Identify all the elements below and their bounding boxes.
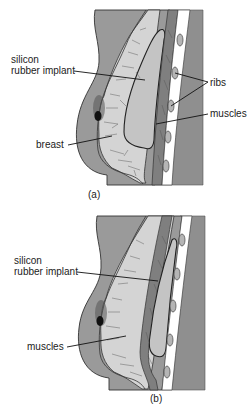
rib — [179, 234, 185, 246]
rib — [164, 366, 170, 378]
label-silicon-b: silicon — [14, 255, 42, 266]
rib — [167, 334, 173, 346]
rib — [165, 131, 171, 143]
label-silicon-a: silicon — [11, 54, 39, 65]
rib — [170, 300, 176, 312]
caption-b: (b) — [150, 393, 162, 404]
caption-a: (a) — [88, 189, 100, 200]
label-breast-a: breast — [36, 139, 64, 150]
rib — [174, 268, 180, 280]
label-muscles-a: muscles — [210, 108, 247, 119]
label-rubber-implant-b: rubber implant — [14, 266, 78, 277]
nipple — [95, 111, 102, 121]
label-ribs-a: ribs — [210, 77, 226, 88]
rib — [163, 160, 169, 172]
label-muscles-b: muscles — [27, 341, 64, 352]
panel-a: silicon rubber implant ribs muscles brea… — [11, 10, 247, 200]
rib — [177, 34, 183, 46]
label-rubber-implant-a: rubber implant — [11, 65, 75, 76]
breast-implant-diagram: silicon rubber implant ribs muscles brea… — [0, 0, 250, 408]
nipple — [97, 316, 104, 326]
panel-b: silicon rubber implant muscles (b) — [14, 216, 205, 404]
